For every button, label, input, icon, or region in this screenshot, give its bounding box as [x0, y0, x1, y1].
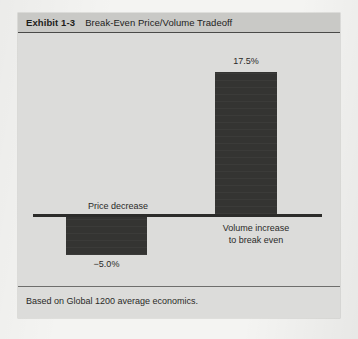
bar-price-decrease	[66, 217, 147, 255]
exhibit-header: Exhibit 1-3 Break-Even Price/Volume Trad…	[18, 13, 340, 33]
category-label-price-decrease: Price decrease	[68, 200, 168, 212]
bar-value-label-volume: 17.5%	[215, 56, 277, 66]
exhibit-box: Exhibit 1-3 Break-Even Price/Volume Trad…	[18, 13, 340, 318]
category-label-volume-increase: Volume increase to break even	[206, 222, 306, 246]
category-label-volume-increase-line1: Volume increase	[206, 222, 306, 234]
exhibit-title: Break-Even Price/Volume Tradeoff	[85, 17, 232, 28]
exhibit-number: Exhibit 1-3	[26, 17, 75, 28]
exhibit-footnote: Based on Global 1200 average economics.	[26, 296, 198, 306]
bar-volume-increase	[215, 72, 277, 214]
exhibit-footer: Based on Global 1200 average economics.	[18, 286, 340, 318]
category-label-price-decrease-line1: Price decrease	[68, 200, 168, 212]
page-background: Exhibit 1-3 Break-Even Price/Volume Trad…	[0, 0, 358, 339]
category-label-volume-increase-line2: to break even	[206, 234, 306, 246]
chart-plot-area: 17.5% Price decrease Volume increase to …	[18, 32, 340, 286]
bar-value-label-price: −5.0%	[66, 259, 147, 269]
